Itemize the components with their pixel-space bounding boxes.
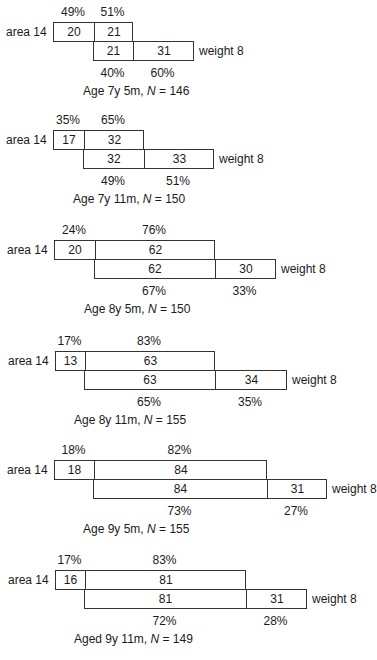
row-label-weight: weight 8	[219, 152, 264, 166]
panel-caption: Age 7y 5m, N = 146	[83, 84, 189, 98]
caption-count: = 155	[156, 522, 190, 536]
row-label-weight: weight 8	[199, 44, 244, 58]
area-only-cell: 20	[55, 241, 96, 259]
area-row-box: 17 32	[53, 130, 144, 150]
bottom-left-percent: 40%	[100, 66, 124, 80]
bottom-right-percent: 33%	[232, 284, 256, 298]
area-row-box: 18 84	[54, 460, 267, 480]
caption-age: Age 7y 11m,	[73, 192, 143, 206]
panel-caption: Age 8y 11m, N = 155	[74, 413, 186, 427]
row-label-area: area 14	[7, 243, 48, 257]
area-row-box: 20 62	[54, 240, 215, 260]
weight-row-box: 63 34	[84, 370, 287, 390]
overlap-cell-bottom: 81	[85, 590, 247, 608]
caption-count: = 150	[157, 302, 191, 316]
weight-row-box: 32 33	[83, 149, 214, 169]
area-only-cell: 20	[54, 23, 95, 41]
overlap-cell-bottom: 62	[95, 260, 216, 278]
weight-row-box: 62 30	[94, 259, 276, 279]
weight-row-box: 21 31	[93, 41, 194, 61]
area-only-cell: 13	[56, 352, 86, 370]
bottom-left-percent: 72%	[152, 614, 176, 628]
area-only-cell: 17	[54, 131, 85, 149]
caption-count: = 155	[153, 413, 187, 427]
weight-row-box: 81 31	[84, 589, 307, 609]
row-label-area: area 14	[6, 25, 47, 39]
bottom-left-percent: 73%	[167, 504, 191, 518]
row-label-weight: weight 8	[332, 482, 377, 496]
overlap-cell-bottom: 21	[94, 42, 134, 60]
caption-n-symbol: N	[147, 522, 156, 536]
caption-count: = 146	[156, 84, 190, 98]
caption-n-symbol: N	[148, 302, 157, 316]
overlap-cell-bottom: 84	[94, 480, 268, 498]
row-label-area: area 14	[8, 573, 49, 587]
area-row-box: 20 21	[53, 22, 133, 42]
bottom-right-percent: 28%	[263, 614, 287, 628]
bottom-right-percent: 35%	[238, 395, 262, 409]
caption-age: Age 8y 11m,	[74, 413, 144, 427]
area-only-cell: 18	[55, 461, 95, 479]
row-label-weight: weight 8	[312, 592, 357, 606]
caption-age: Age 9y 5m,	[83, 522, 147, 536]
weight-only-cell: 31	[134, 42, 194, 60]
caption-n-symbol: N	[147, 84, 156, 98]
top-right-percent: 76%	[142, 223, 166, 237]
panel-caption: Age 9y 5m, N = 155	[83, 522, 189, 536]
area-row-box: 16 81	[55, 570, 246, 590]
overlap-cell-top: 62	[96, 241, 215, 259]
top-right-percent: 83%	[152, 553, 176, 567]
bottom-right-percent: 51%	[166, 174, 190, 188]
caption-n-symbol: N	[151, 632, 160, 646]
bottom-left-percent: 49%	[101, 174, 125, 188]
caption-age: Age 7y 5m,	[83, 84, 147, 98]
panel-caption: Age 7y 11m, N = 150	[73, 192, 185, 206]
weight-only-cell: 31	[247, 590, 307, 608]
top-right-percent: 82%	[167, 443, 191, 457]
top-right-percent: 65%	[101, 113, 125, 127]
caption-age: Age 8y 5m,	[84, 302, 148, 316]
caption-n-symbol: N	[143, 192, 152, 206]
top-left-percent: 17%	[57, 334, 81, 348]
overlap-cell-bottom: 32	[84, 150, 145, 168]
top-left-percent: 24%	[62, 223, 86, 237]
caption-count: = 149	[159, 632, 193, 646]
bottom-right-percent: 60%	[150, 66, 174, 80]
panel-caption: Aged 9y 11m, N = 149	[74, 632, 193, 646]
top-left-percent: 17%	[57, 553, 81, 567]
row-label-area: area 14	[7, 463, 48, 477]
weight-only-cell: 31	[268, 480, 327, 498]
row-label-area: area 14	[8, 354, 49, 368]
weight-only-cell: 34	[216, 371, 287, 389]
weight-row-box: 84 31	[93, 479, 327, 499]
top-right-percent: 83%	[137, 334, 161, 348]
top-left-percent: 49%	[61, 5, 85, 19]
panel-caption: Age 8y 5m, N = 150	[84, 302, 190, 316]
overlap-cell-top: 21	[95, 23, 133, 41]
overlap-cell-top: 81	[86, 571, 246, 589]
row-label-area: area 14	[6, 133, 47, 147]
bottom-right-percent: 27%	[284, 504, 308, 518]
caption-n-symbol: N	[144, 413, 153, 427]
top-right-percent: 51%	[100, 5, 124, 19]
caption-age: Aged 9y 11m,	[74, 632, 151, 646]
overlap-cell-bottom: 63	[85, 371, 216, 389]
top-left-percent: 18%	[61, 443, 85, 457]
caption-count: = 150	[152, 192, 186, 206]
bottom-left-percent: 67%	[142, 284, 166, 298]
top-left-percent: 35%	[56, 113, 80, 127]
overlap-cell-top: 84	[95, 461, 267, 479]
weight-only-cell: 33	[145, 150, 214, 168]
area-row-box: 13 63	[55, 351, 215, 371]
bottom-left-percent: 65%	[137, 395, 161, 409]
weight-only-cell: 30	[216, 260, 276, 278]
overlap-cell-top: 63	[86, 352, 215, 370]
overlap-cell-top: 32	[85, 131, 144, 149]
row-label-weight: weight 8	[292, 373, 337, 387]
row-label-weight: weight 8	[281, 262, 326, 276]
area-only-cell: 16	[56, 571, 86, 589]
